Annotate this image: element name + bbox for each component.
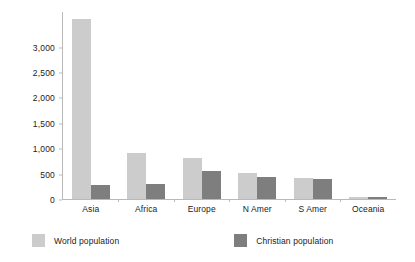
legend-item-christian-population: Christian population xyxy=(234,234,333,247)
y-axis-tick-label: 2,000 xyxy=(33,93,55,103)
y-axis-tick-mark xyxy=(59,200,62,201)
y-axis-tick-mark xyxy=(59,98,62,99)
bar-oceania-christian[interactable] xyxy=(368,197,387,199)
y-axis-tick-mark xyxy=(59,149,62,150)
y-axis-tick-mark xyxy=(59,47,62,48)
bar-europe-world[interactable] xyxy=(183,158,202,199)
y-axis-tick-label: 1,500 xyxy=(33,119,55,129)
christian-population-swatch xyxy=(234,234,247,247)
x-axis-tick-mark xyxy=(229,199,230,202)
world-population-swatch xyxy=(32,234,45,247)
bar-n-amer-christian[interactable] xyxy=(257,177,276,199)
x-axis-tick-mark xyxy=(285,199,286,202)
x-axis-tick-mark xyxy=(118,199,119,202)
bar-s-amer-world[interactable] xyxy=(294,178,313,199)
bar-group-europe: Europe xyxy=(174,12,230,199)
legend-label-christian-population: Christian population xyxy=(256,236,333,246)
bar-group-asia: Asia xyxy=(63,12,119,199)
plot-area: 05001,0001,5002,0002,5003,000 AsiaAfrica… xyxy=(62,12,396,200)
bar-s-amer-christian[interactable] xyxy=(313,179,332,199)
bar-asia-christian[interactable] xyxy=(91,185,110,199)
bar-africa-christian[interactable] xyxy=(146,184,165,199)
chart-page: 05001,0001,5002,0002,5003,000 AsiaAfrica… xyxy=(0,0,415,262)
bar-oceania-world[interactable] xyxy=(349,197,368,199)
x-axis-tick-label: N Amer xyxy=(230,204,286,214)
bar-africa-world[interactable] xyxy=(127,153,146,199)
bar-groups: AsiaAfricaEuropeN AmerS AmerOceania xyxy=(63,12,396,199)
x-axis-tick-mark xyxy=(174,199,175,202)
bar-n-amer-world[interactable] xyxy=(238,173,257,199)
legend-label-world-population: World population xyxy=(54,236,119,246)
bar-europe-christian[interactable] xyxy=(202,171,221,199)
y-axis-tick-label: 0 xyxy=(50,195,55,205)
bar-asia-world[interactable] xyxy=(72,19,91,199)
bar-group-oceania: Oceania xyxy=(341,12,397,199)
x-axis-tick-label: Asia xyxy=(63,204,119,214)
y-axis-tick-label: 500 xyxy=(40,170,55,180)
y-axis-tick-label: 3,000 xyxy=(33,43,55,53)
y-axis-tick-mark xyxy=(59,123,62,124)
bar-group-n-amer: N Amer xyxy=(230,12,286,199)
y-axis-tick-mark xyxy=(59,72,62,73)
chart-legend: World population Christian population xyxy=(32,234,333,247)
y-axis-tick-mark xyxy=(59,174,62,175)
x-axis-tick-label: Africa xyxy=(119,204,175,214)
y-axis-tick-label: 2,500 xyxy=(33,68,55,78)
bar-group-s-amer: S Amer xyxy=(285,12,341,199)
x-axis-tick-label: Europe xyxy=(174,204,230,214)
x-axis-tick-label: Oceania xyxy=(341,204,397,214)
y-axis-tick-label: 1,000 xyxy=(33,144,55,154)
x-axis-tick-mark xyxy=(340,199,341,202)
bar-group-africa: Africa xyxy=(119,12,175,199)
x-axis-tick-label: S Amer xyxy=(285,204,341,214)
legend-item-world-population: World population xyxy=(32,234,119,247)
